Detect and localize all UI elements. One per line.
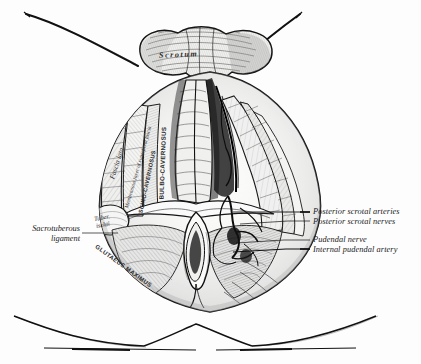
- label-scrotum: Scrotum: [159, 49, 199, 59]
- label-sacrotuberous-ligament: Sacrotuberous ligament: [12, 224, 80, 243]
- label-internal-pudendal-artery: Internal pudendal artery: [313, 246, 397, 255]
- label-pudendal-nerve: Pudendal nerve: [313, 236, 367, 245]
- sacrotuberous-line2: ligament: [12, 234, 80, 244]
- sacrotuberous-line1: Sacrotuberous: [12, 224, 80, 234]
- perineum-anatomical-plate: [0, 0, 421, 364]
- label-posterior-scrotal-nerves: Posterior scrotal nerves: [313, 218, 395, 227]
- label-posterior-scrotal-arteries: Posterior scrotal arteries: [313, 208, 400, 217]
